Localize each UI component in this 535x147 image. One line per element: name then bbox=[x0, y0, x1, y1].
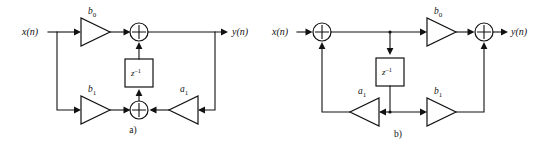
arrow-b1-into-adder-b bbox=[481, 42, 488, 49]
arrow-b1-into-adder-a bbox=[124, 107, 131, 114]
arrow-into-a1-b bbox=[379, 109, 386, 116]
arrow-into-b1-b bbox=[420, 109, 427, 116]
arrow-a1-into-adder-b bbox=[319, 42, 326, 49]
gain-triangle-a1-a bbox=[169, 96, 198, 124]
arrow-bottom-adder-up-a bbox=[136, 89, 143, 96]
arrow-b0-into-adder-b bbox=[468, 29, 475, 36]
arrow-output-b bbox=[501, 29, 508, 36]
arrow-into-b1-a bbox=[74, 107, 81, 114]
arrow-into-a1-a bbox=[198, 107, 205, 114]
gain-label-a1-b: a1 bbox=[358, 86, 367, 99]
bottom-adder-a bbox=[130, 101, 148, 119]
output-label-a: y(n) bbox=[231, 26, 249, 38]
output-feedback-wire-a bbox=[200, 32, 215, 110]
arrow-into-b0-a bbox=[74, 29, 81, 36]
a1-feedback-wire-b bbox=[322, 46, 350, 112]
gain-label-a1-a: a1 bbox=[180, 84, 189, 97]
arrow-into-input-adder-b bbox=[306, 29, 313, 36]
gain-triangle-a1-b bbox=[350, 98, 379, 126]
output-adder-b bbox=[475, 23, 493, 41]
gain-label-b0-b: b0 bbox=[434, 6, 443, 19]
arrow-a1-into-adder-a bbox=[150, 107, 157, 114]
gain-label-b1-b: b1 bbox=[434, 86, 443, 99]
input-label-b: x(n) bbox=[271, 26, 289, 38]
arrow-into-b0-b bbox=[420, 29, 427, 36]
diagram-a: x(n) b0 y(n) z–1 bbox=[21, 6, 249, 136]
top-adder-a bbox=[130, 23, 148, 41]
b1-to-output-adder-wire-b bbox=[456, 46, 484, 112]
caption-b: b) bbox=[394, 129, 402, 140]
gain-triangle-b0-b bbox=[427, 18, 456, 46]
input-label-a: x(n) bbox=[21, 26, 39, 38]
delay-block-b: z–1 bbox=[376, 58, 404, 86]
delay-block-a: z–1 bbox=[125, 59, 153, 87]
diagram-b: x(n) b0 y(n) bbox=[271, 6, 528, 140]
output-label-b: y(n) bbox=[510, 26, 528, 38]
branch-node-b bbox=[388, 30, 391, 33]
gain-triangle-b1-b bbox=[427, 98, 456, 126]
arrow-into-delay-b bbox=[387, 48, 394, 55]
gain-label-b0-a: b0 bbox=[88, 6, 97, 19]
arrow-delay-up-a bbox=[136, 42, 143, 49]
input-branch-wire-a bbox=[57, 32, 78, 110]
gain-label-b1-a: b1 bbox=[88, 84, 97, 97]
signal-flow-figure: x(n) b0 y(n) z–1 bbox=[0, 0, 535, 147]
gain-triangle-b1-a bbox=[81, 96, 110, 124]
input-adder-b bbox=[313, 23, 331, 41]
arrow-output-a bbox=[221, 29, 228, 36]
caption-a: a) bbox=[129, 125, 136, 136]
gain-triangle-b0-a bbox=[81, 18, 110, 46]
